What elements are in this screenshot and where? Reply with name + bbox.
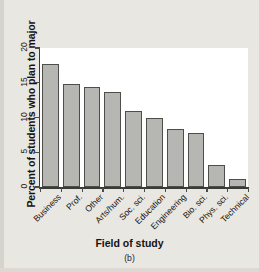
x-axis-tick [248, 188, 249, 192]
bar [229, 179, 246, 187]
bar [104, 92, 121, 187]
y-axis-tick [35, 47, 40, 48]
x-axis-tick [144, 188, 145, 192]
x-axis-tick [227, 188, 228, 192]
y-axis-tick-label: 5 [19, 141, 29, 161]
figure-bottom-edge [0, 268, 259, 272]
bar-chart-figure: Percent of students who plan to major 05… [0, 0, 259, 272]
y-axis-tick [35, 117, 40, 118]
x-axis-tick [123, 188, 124, 192]
y-axis-tick [35, 152, 40, 153]
y-axis-tick-label: 20 [19, 37, 29, 57]
panel-caption: (b) [0, 253, 259, 263]
x-axis-title: Field of study [0, 237, 259, 249]
y-axis-tick [35, 82, 40, 83]
x-axis-tick [40, 188, 41, 192]
bar [167, 129, 184, 187]
bar [125, 111, 142, 187]
y-axis-tick-label: 15 [19, 72, 29, 92]
bar [146, 118, 163, 188]
x-axis-tick [165, 188, 166, 192]
bar [208, 165, 225, 187]
x-axis-tick [82, 188, 83, 192]
x-axis-tick [206, 188, 207, 192]
bar [63, 84, 80, 187]
bar [188, 133, 205, 187]
bar [84, 87, 101, 187]
bar [42, 64, 59, 187]
y-axis-line [39, 49, 40, 188]
figure-left-edge [0, 0, 4, 272]
x-axis-tick [186, 188, 187, 192]
y-axis-tick-label: 0 [19, 176, 29, 196]
y-axis-tick-label: 10 [19, 107, 29, 127]
x-axis-tick [102, 188, 103, 192]
x-axis-tick [61, 188, 62, 192]
